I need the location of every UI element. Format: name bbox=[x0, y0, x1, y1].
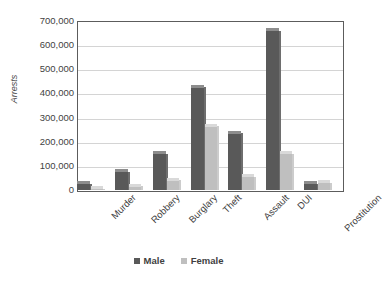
y-axis-tick-label: 300,000 bbox=[14, 112, 74, 123]
bar-female-prostitution bbox=[318, 183, 330, 190]
bar-top-face bbox=[318, 180, 330, 183]
bar-face bbox=[129, 186, 141, 190]
bar-top-face bbox=[205, 124, 217, 127]
bar-side-face bbox=[330, 183, 332, 190]
x-axis-label-dui: DUI bbox=[295, 192, 314, 211]
bar-face bbox=[153, 154, 166, 190]
bar-face bbox=[242, 177, 254, 190]
bar-group bbox=[304, 21, 342, 190]
bar-male-robbery bbox=[115, 172, 128, 190]
x-axis-label-prostitution: Prostitution bbox=[342, 192, 383, 233]
y-axis-tick-label: 100,000 bbox=[14, 160, 74, 171]
bar-male-burglary bbox=[153, 154, 166, 190]
bar-side-face bbox=[141, 186, 143, 190]
bar-female-theft bbox=[205, 126, 217, 190]
bar-top-face bbox=[167, 178, 179, 181]
bar-face bbox=[228, 133, 241, 190]
bar-group bbox=[228, 21, 266, 190]
x-axis-labels: MurderRobberyBurglaryTheftAssaultDUIPros… bbox=[77, 192, 342, 252]
bar-top-face bbox=[228, 131, 241, 134]
bar-group bbox=[115, 21, 153, 190]
y-axis-tick-label: 200,000 bbox=[14, 136, 74, 147]
bar-male-dui bbox=[266, 31, 279, 190]
bar-face bbox=[205, 126, 217, 190]
y-axis-tick-label: 600,000 bbox=[14, 39, 74, 50]
bar-male-murder bbox=[77, 184, 90, 190]
x-axis-label-assault: Assault bbox=[261, 192, 291, 222]
bar-top-face bbox=[91, 186, 103, 189]
bar-top-face bbox=[77, 181, 90, 184]
bar-female-burglary bbox=[167, 180, 179, 190]
bar-female-dui bbox=[280, 154, 292, 190]
legend-swatch-icon bbox=[181, 258, 187, 264]
legend-item-male[interactable]: Male bbox=[134, 255, 165, 266]
x-axis-label-burglary: Burglary bbox=[187, 192, 220, 225]
bar-side-face bbox=[217, 126, 219, 190]
y-axis-tick-label: 0 bbox=[14, 184, 74, 195]
legend-swatch-icon bbox=[134, 258, 140, 264]
bar-group bbox=[153, 21, 191, 190]
bar-face bbox=[304, 184, 317, 190]
bar-top-face bbox=[115, 169, 128, 172]
legend-item-female[interactable]: Female bbox=[181, 255, 224, 266]
x-axis-label-murder: Murder bbox=[109, 192, 138, 221]
bar-male-theft bbox=[191, 87, 204, 190]
bar-group bbox=[77, 21, 115, 190]
y-axis-tick-label: 500,000 bbox=[14, 63, 74, 74]
bars-layer bbox=[77, 21, 342, 190]
bar-female-robbery bbox=[129, 186, 141, 190]
legend: MaleFemale bbox=[0, 255, 357, 266]
bar-face bbox=[266, 31, 279, 190]
x-axis-label-robbery: Robbery bbox=[149, 192, 182, 225]
bar-female-assault bbox=[242, 177, 254, 190]
bar-top-face bbox=[191, 85, 204, 88]
bar-face bbox=[280, 154, 292, 190]
bar-top-face bbox=[280, 151, 292, 154]
legend-label: Female bbox=[191, 255, 224, 266]
bar-top-face bbox=[129, 184, 141, 187]
bar-top-face bbox=[266, 28, 279, 31]
bar-top-face bbox=[304, 181, 317, 184]
bar-female-murder bbox=[91, 189, 103, 190]
bar-top-face bbox=[242, 174, 254, 177]
bar-face bbox=[167, 180, 179, 190]
bar-face bbox=[191, 87, 204, 190]
bar-group bbox=[191, 21, 229, 190]
bar-side-face bbox=[179, 180, 181, 190]
bar-side-face bbox=[254, 177, 256, 190]
legend-label: Male bbox=[144, 255, 165, 266]
bar-side-face bbox=[103, 189, 105, 190]
bar-top-face bbox=[153, 151, 166, 154]
x-axis-label-theft: Theft bbox=[220, 192, 243, 215]
bar-face bbox=[318, 183, 330, 190]
y-axis-tick-label: 700,000 bbox=[14, 15, 74, 26]
y-axis-tick-label: 400,000 bbox=[14, 87, 74, 98]
bar-face bbox=[115, 172, 128, 190]
bar-male-assault bbox=[228, 133, 241, 190]
bar-face bbox=[77, 184, 90, 190]
bar-side-face bbox=[292, 154, 294, 190]
bar-male-prostitution bbox=[304, 184, 317, 190]
bar-group bbox=[266, 21, 304, 190]
